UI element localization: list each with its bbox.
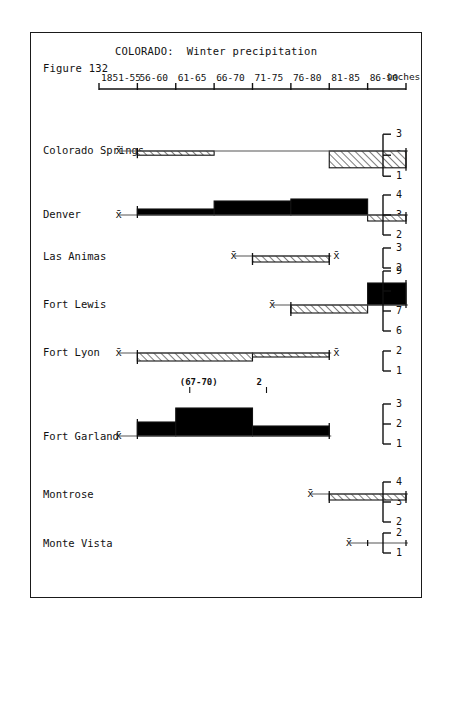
figure-frame: Figure 132 COLORADO: Winter precipitatio… [30,32,422,598]
chart-graphics [31,33,423,599]
